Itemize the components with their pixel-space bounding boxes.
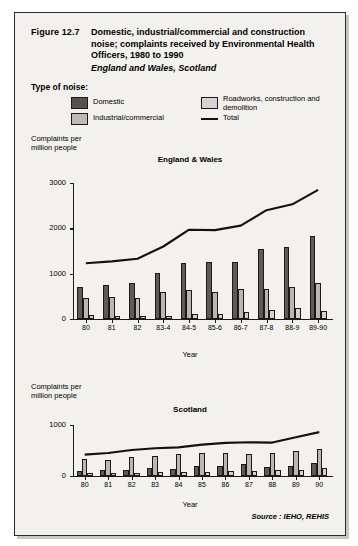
bar-roadworks bbox=[87, 473, 92, 476]
x-tick-label: 84-5 bbox=[176, 324, 202, 331]
legend-label-industrial: Industrial/commercial bbox=[93, 114, 164, 123]
legend: Domestic Industrial/commercial Roadworks… bbox=[71, 96, 341, 128]
x-tick bbox=[155, 477, 156, 480]
y-tick bbox=[70, 228, 74, 229]
x-tick-label: 89-90 bbox=[305, 324, 331, 331]
bar-roadworks bbox=[275, 470, 280, 476]
bar-roadworks bbox=[111, 473, 116, 476]
x-tick-label: 88 bbox=[261, 481, 284, 488]
legend-label-total: Total bbox=[223, 114, 239, 123]
x-tick bbox=[202, 477, 203, 480]
x-tick bbox=[85, 477, 86, 480]
x-tick-label: 86 bbox=[214, 481, 237, 488]
bar-roadworks bbox=[252, 471, 257, 476]
legend-label-domestic: Domestic bbox=[93, 98, 124, 107]
ylabel-england-wales: Complaints per million people bbox=[31, 135, 101, 152]
y-axis-line bbox=[73, 425, 74, 476]
bar-roadworks bbox=[158, 472, 163, 476]
bar-roadworks bbox=[115, 316, 121, 319]
bar-roadworks bbox=[299, 470, 304, 476]
legend-line-total bbox=[201, 118, 218, 120]
x-tick bbox=[163, 320, 164, 323]
x-tick-label: 87 bbox=[237, 481, 260, 488]
figure-page: Figure 12.7 Domestic, industrial/commerc… bbox=[0, 0, 358, 546]
y-tick-label: 0 bbox=[40, 471, 66, 480]
x-tick-label: 85 bbox=[190, 481, 213, 488]
panel-title-england-wales: England & Wales bbox=[125, 155, 255, 164]
x-tick bbox=[292, 320, 293, 323]
x-tick-label: 83-4 bbox=[150, 324, 176, 331]
bar-roadworks bbox=[166, 316, 172, 319]
x-tick-label: 81 bbox=[99, 324, 125, 331]
x-tick-label: 83 bbox=[143, 481, 166, 488]
y-tick-label: 0 bbox=[40, 314, 66, 323]
x-tick bbox=[318, 320, 319, 323]
x-tick-label: 80 bbox=[73, 324, 99, 331]
x-tick bbox=[249, 477, 250, 480]
x-tick-label: 80 bbox=[73, 481, 96, 488]
y-tick bbox=[70, 425, 74, 426]
x-tick-label: 89 bbox=[284, 481, 307, 488]
y-tick-label: 3000 bbox=[40, 178, 66, 187]
x-axis-line bbox=[73, 476, 333, 477]
figure-subtitle: England and Wales, Scotland bbox=[91, 63, 331, 73]
bar-roadworks bbox=[89, 315, 95, 319]
x-tick-label: 82 bbox=[120, 481, 143, 488]
x-tick-label: 87-8 bbox=[254, 324, 280, 331]
chart-scotland: 010008081828384858687888990 bbox=[31, 403, 331, 498]
legend-heading: Type of noise: bbox=[31, 82, 88, 92]
x-tick bbox=[189, 320, 190, 323]
x-tick bbox=[86, 320, 87, 323]
source-note: Source : IEHO, REHIS bbox=[251, 512, 329, 521]
x-tick-label: 88-9 bbox=[279, 324, 305, 331]
legend-label-roadworks: Roadworks, construction and demolition bbox=[223, 95, 333, 112]
y-tick bbox=[70, 319, 74, 320]
x-tick bbox=[112, 320, 113, 323]
bar-roadworks bbox=[134, 473, 139, 476]
ylabel-scotland: Complaints per million people bbox=[31, 383, 101, 400]
x-tick bbox=[296, 477, 297, 480]
legend-swatch-domestic bbox=[71, 97, 88, 109]
legend-swatch-industrial bbox=[71, 113, 88, 125]
figure-frame: Figure 12.7 Domestic, industrial/commerc… bbox=[14, 12, 346, 536]
bar-roadworks bbox=[321, 311, 327, 319]
bar-roadworks bbox=[295, 308, 301, 319]
bar-roadworks bbox=[269, 310, 275, 319]
x-tick bbox=[132, 477, 133, 480]
x-tick bbox=[225, 477, 226, 480]
total-line bbox=[85, 432, 320, 455]
y-axis-line bbox=[73, 183, 74, 319]
xlabel-england-wales: Year bbox=[125, 350, 255, 359]
x-tick bbox=[108, 477, 109, 480]
x-tick-label: 90 bbox=[308, 481, 331, 488]
y-tick-label: 2000 bbox=[40, 223, 66, 232]
bar-roadworks bbox=[244, 312, 250, 319]
x-tick bbox=[319, 477, 320, 480]
figure-number: Figure 12.7 bbox=[31, 27, 80, 37]
y-tick-label: 1000 bbox=[40, 420, 66, 429]
xlabel-scotland: Year bbox=[125, 500, 255, 509]
x-tick-label: 81 bbox=[96, 481, 119, 488]
x-tick-label: 84 bbox=[167, 481, 190, 488]
bar-roadworks bbox=[228, 471, 233, 476]
bar-roadworks bbox=[205, 472, 210, 476]
y-tick bbox=[70, 274, 74, 275]
x-tick bbox=[267, 320, 268, 323]
x-tick bbox=[272, 477, 273, 480]
x-tick-label: 86-7 bbox=[228, 324, 254, 331]
chart-england-wales: 010002000300080818283-484-585-686-787-88… bbox=[31, 171, 331, 341]
y-tick bbox=[70, 183, 74, 184]
bar-roadworks bbox=[181, 472, 186, 476]
bar-roadworks bbox=[218, 314, 224, 319]
x-tick-label: 85-6 bbox=[202, 324, 228, 331]
bar-roadworks bbox=[322, 468, 327, 476]
x-tick bbox=[179, 477, 180, 480]
y-tick-label: 1000 bbox=[40, 269, 66, 278]
x-tick bbox=[241, 320, 242, 323]
x-tick-label: 82 bbox=[125, 324, 151, 331]
bar-roadworks bbox=[140, 316, 146, 319]
figure-title: Domestic, industrial/commercial and cons… bbox=[91, 27, 331, 62]
x-tick bbox=[138, 320, 139, 323]
bar-roadworks bbox=[192, 314, 198, 319]
legend-swatch-roadworks bbox=[201, 97, 218, 109]
